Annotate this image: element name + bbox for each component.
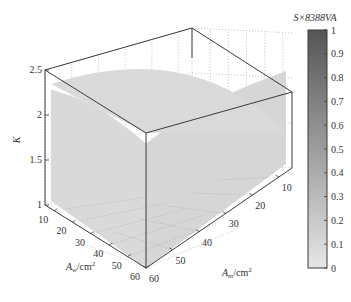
colorbar-tick-label: 0.2 (331, 215, 344, 226)
colorbar-tick-label: 0.9 (331, 48, 344, 59)
colorbar-tick-label: 1 (331, 25, 336, 36)
x-tick-label: 60 (130, 271, 140, 282)
colorbar-tick-label: 0.3 (331, 191, 344, 202)
colorbar-tick-label: 0.8 (331, 72, 344, 83)
z-tick-label: 2 (37, 109, 42, 120)
x-tick-label: 10 (38, 214, 48, 225)
y-tick-label: 20 (255, 200, 265, 211)
x-tick-label: 20 (57, 225, 67, 236)
x-tick-label: 50 (112, 260, 122, 271)
box-edge (45, 28, 192, 70)
colorbar-tick-label: 0 (331, 263, 336, 274)
x-tick (91, 232, 94, 234)
colorbar-label: S×8388VA (293, 12, 337, 23)
x-tick-label: 40 (93, 248, 103, 259)
x-tick (54, 209, 57, 211)
z-axis-label: K (11, 135, 22, 144)
colorbar-tick-label: 0.6 (331, 120, 344, 131)
z-tick-label: 1 (37, 199, 42, 210)
y-tick-label: 30 (229, 218, 239, 229)
y-axis-label: Am/cm2 (221, 266, 252, 280)
colorbar-tick-label: 0.4 (331, 167, 344, 178)
y-tick (276, 175, 279, 177)
z-tick-label: 2.5 (30, 64, 43, 75)
z-tick-label: 1.5 (30, 154, 43, 165)
y-tick-label: 60 (149, 273, 159, 284)
x-tick (109, 243, 112, 245)
colorbar-tick-label: 0.5 (331, 144, 344, 155)
y-tick-label: 40 (202, 237, 212, 248)
y-tick (249, 193, 252, 195)
surface-chart: 11.522.5102030405060102030405060 K Aw/cm… (0, 0, 351, 302)
y-tick (223, 211, 226, 213)
colorbar-tick-label: 0.7 (331, 96, 344, 107)
x-axis-label: Aw/cm2 (65, 260, 96, 274)
y-tick-label: 10 (282, 182, 292, 193)
x-tick-label: 30 (75, 237, 85, 248)
colorbar-tick-label: 0.1 (331, 239, 344, 250)
x-tick (73, 220, 76, 222)
y-tick-label: 50 (176, 255, 186, 266)
